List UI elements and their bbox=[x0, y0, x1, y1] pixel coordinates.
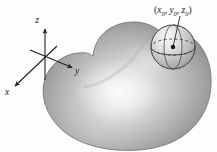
y-axis-label: y bbox=[74, 66, 80, 76]
z-axis-label: z bbox=[34, 15, 39, 25]
figure-container: z y x (x0, y0, z0) bbox=[0, 0, 217, 152]
figure-canvas: z y x (x0, y0, z0) bbox=[0, 0, 217, 152]
label-close-paren: ) bbox=[189, 5, 192, 16]
sphere-center-dot bbox=[171, 45, 175, 49]
x-axis-label: x bbox=[4, 87, 10, 97]
